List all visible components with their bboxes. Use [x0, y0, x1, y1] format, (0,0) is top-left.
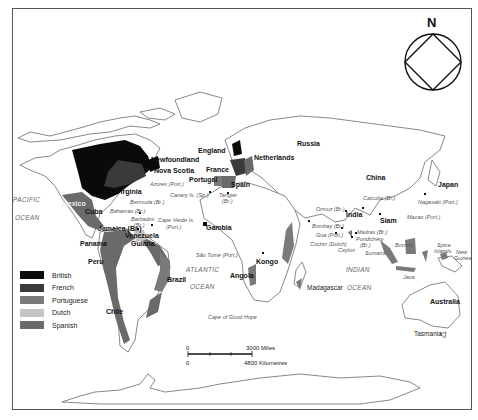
legend: British French Portuguese Dutch Spanish [20, 269, 88, 332]
ocean-label-indian: INDIAN [346, 267, 370, 274]
compass-north-label: N [427, 15, 436, 30]
region-label-kongo: Kongo [256, 258, 278, 265]
legend-label: French [52, 284, 74, 291]
outpost-label-calcutta: Calcutta (Br.) [363, 196, 395, 202]
outpost-label-new-guinea-2: Guinea [454, 256, 472, 262]
outpost-label-java: Java [403, 275, 415, 281]
region-label-spain: Spain [231, 181, 250, 188]
ocean-label-pacific: PACIFIC [13, 197, 40, 204]
outpost-label-ormuz: Ormuz (Br.) [316, 207, 345, 213]
outpost-label-madras: Madras (Br.) [357, 230, 387, 236]
scale-km-zero: 0 [186, 360, 189, 366]
outpost-label-bermuda: Bermuda (Br.) [130, 200, 164, 206]
outpost-label-nagasaki: Nagasaki (Port.) [418, 200, 458, 206]
region-label-india: India [346, 211, 362, 218]
region-label-cuba: Cuba [85, 208, 103, 215]
outpost-label-barbados-2: (Br.) [134, 223, 145, 229]
region-label-england: England [198, 147, 226, 154]
legend-item-dutch: Dutch [20, 307, 88, 320]
legend-item-portuguese: Portuguese [20, 294, 88, 307]
world-map [0, 0, 478, 420]
outpost-label-cape-verde-2: (Port.) [166, 225, 181, 231]
outpost-label-ceylon: Ceylon [338, 248, 355, 254]
outpost-label-tangier-2: (Br.) [222, 199, 233, 205]
outpost-label-spice-islands-2: Islands [434, 249, 451, 255]
region-label-guiana: Guiana [131, 240, 155, 247]
ocean-label-atlantic-2: OCEAN [190, 284, 215, 291]
scale-bar [188, 351, 252, 357]
region-label-gambia: Gambia [206, 224, 232, 231]
legend-item-british: British [20, 269, 88, 282]
legend-label: Spanish [52, 322, 77, 329]
outpost-label-borneo: Borneo [395, 243, 413, 249]
region-label-australia: Australia [430, 298, 460, 305]
region-label-madagascar: Madagascar [307, 285, 343, 292]
outpost-label-azores: Azores (Port.) [150, 182, 184, 188]
outpost-label-cape-verde: Cape Verde Is. [158, 218, 194, 224]
region-label-nova-scotia: Nova Scotia [154, 167, 194, 174]
region-label-panama: Panama [80, 240, 107, 247]
region-label-russia: Russia [297, 140, 320, 147]
region-label-angola: Angola [230, 272, 254, 279]
region-label-siam: Siam [380, 217, 397, 224]
region-label-tasmania: Tasmania [414, 331, 442, 338]
outpost-label-bahamas: Bahamas (Br.) [110, 209, 145, 215]
region-label-brazil: Brazil [167, 276, 186, 283]
dutch-java [396, 266, 416, 272]
antarctica [62, 374, 420, 404]
outpost-label-pondichery-2: (Br.) [360, 243, 371, 249]
region-label-china: China [366, 174, 385, 181]
outpost-label-bombay: Bombay (Br.) [312, 224, 344, 230]
legend-label: Portuguese [52, 297, 88, 304]
legend-swatch-dutch [20, 309, 44, 317]
outpost-label-canary: Canary Is. (Sp.) [170, 193, 209, 199]
region-label-virginia: Virginia [116, 188, 142, 195]
region-label-chile: Chile [106, 308, 123, 315]
legend-item-spanish: Spanish [20, 319, 88, 332]
legend-swatch-portuguese [20, 296, 44, 304]
ocean-label-atlantic: ATLANTIC [186, 267, 219, 274]
outpost-label-sumatra: Sumatra [365, 251, 386, 257]
legend-swatch-british [20, 271, 44, 279]
region-label-peru: Peru [88, 258, 104, 265]
region-label-newfoundland: Newfoundland [151, 156, 199, 163]
compass-rose [405, 34, 461, 90]
outpost-label-cape-good-hope: Cape of Good Hope [208, 315, 257, 321]
scale-miles-label: 3000 Miles [246, 345, 275, 351]
outpost-label-sao-tome: São Tomé (Port.) [196, 253, 238, 259]
region-label-venezuela: Venezuela [125, 232, 159, 239]
australia [402, 282, 460, 328]
region-label-japan: Japan [438, 181, 458, 188]
region-label-netherlands: Netherlands [254, 154, 294, 161]
scale-miles-zero: 0 [186, 345, 189, 351]
legend-swatch-french [20, 284, 44, 292]
outpost-label-macao: Macao (Port.) [407, 215, 440, 221]
ocean-label-pacific-2: OCEAN [15, 215, 40, 222]
outpost-label-goa: Goa (Port.) [316, 233, 343, 239]
legend-swatch-spanish [20, 321, 44, 329]
legend-label: Dutch [52, 309, 70, 316]
scale-km-label: 4800 Kilometres [244, 360, 287, 366]
region-label-france: France [206, 166, 229, 173]
region-label-mexico: Mexico [62, 200, 86, 207]
legend-label: British [52, 272, 71, 279]
region-label-portugal: Portugal [189, 176, 217, 183]
legend-item-french: French [20, 282, 88, 295]
ocean-label-indian-2: OCEAN [347, 285, 372, 292]
